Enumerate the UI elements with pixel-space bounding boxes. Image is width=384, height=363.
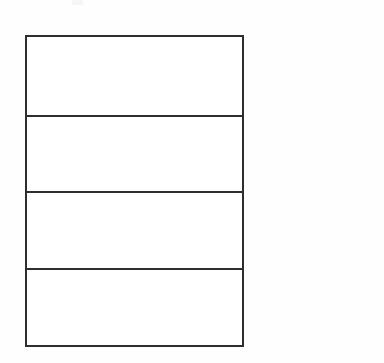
table-row[interactable] (27, 37, 242, 117)
form-table (25, 35, 244, 347)
table-row[interactable] (27, 193, 242, 270)
document-page (0, 0, 384, 363)
scan-smudge-artifact (72, 0, 83, 5)
table-row[interactable] (27, 117, 242, 193)
table-row[interactable] (27, 270, 242, 345)
